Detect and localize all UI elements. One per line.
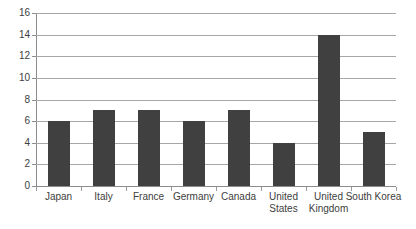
y-axis-tick-label: 6	[0, 116, 30, 126]
y-axis-tick-label: 2	[0, 159, 30, 169]
y-axis-tick-label: 8	[0, 95, 30, 105]
y-axis-tick-label: 14	[0, 30, 30, 40]
bar-slot	[81, 13, 126, 186]
bar-slot	[171, 13, 216, 186]
bar-slot	[126, 13, 171, 186]
bar-slot	[261, 13, 306, 186]
y-axis-tick-label: 0	[0, 181, 30, 191]
plot-area	[36, 13, 396, 186]
bar-slot	[306, 13, 351, 186]
bar[interactable]	[183, 121, 205, 186]
bar-chart: 0246810121416 JapanItalyFranceGermanyCan…	[0, 0, 416, 229]
y-axis-tick-label: 4	[0, 138, 30, 148]
bar[interactable]	[93, 110, 115, 186]
y-axis-tick-label: 10	[0, 73, 30, 83]
bar[interactable]	[228, 110, 250, 186]
bars-layer	[36, 13, 396, 186]
bar[interactable]	[363, 132, 385, 186]
bar[interactable]	[138, 110, 160, 186]
bar[interactable]	[273, 143, 295, 186]
bar[interactable]	[318, 35, 340, 186]
bar[interactable]	[48, 121, 70, 186]
bar-slot	[36, 13, 81, 186]
bar-slot	[216, 13, 261, 186]
y-axis-tick-label: 16	[0, 8, 30, 18]
bar-slot	[351, 13, 396, 186]
y-axis-tick-label: 12	[0, 51, 30, 61]
x-axis-category-label: South Korea	[345, 191, 402, 203]
